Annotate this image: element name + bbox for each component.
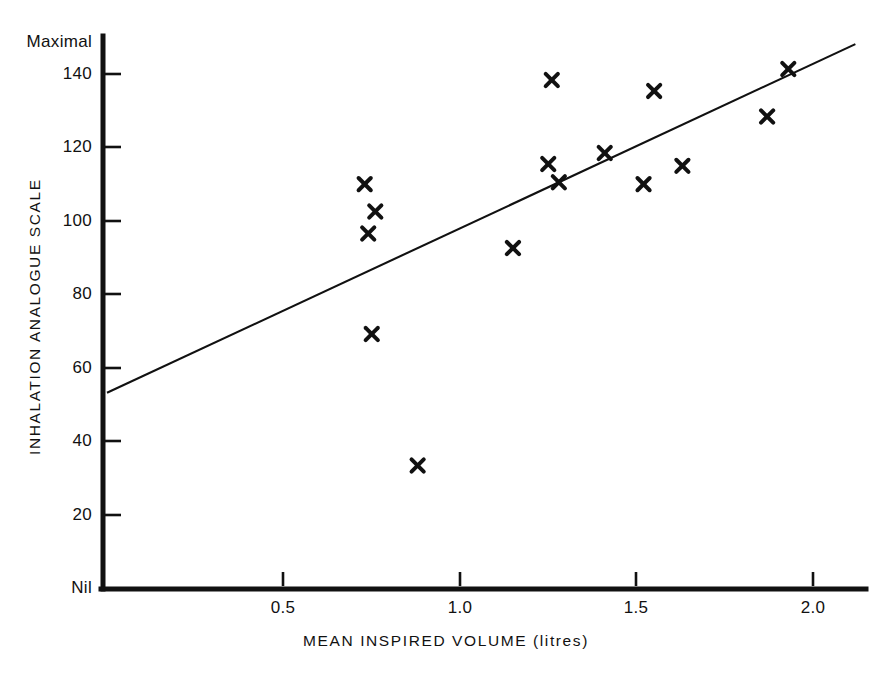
axes-group	[101, 36, 866, 589]
data-point	[507, 242, 519, 254]
data-point	[366, 328, 378, 340]
y-axis-ticks	[104, 74, 121, 515]
data-point	[637, 178, 649, 190]
x-tick-label-1.5: 1.5	[624, 598, 649, 618]
regression-line	[107, 44, 855, 393]
y-tick-label-120: 120	[22, 137, 92, 157]
data-point	[546, 74, 558, 86]
x-tick-label-1.0: 1.0	[448, 598, 473, 618]
data-point	[553, 176, 565, 188]
x-tick-label-2.0: 2.0	[801, 598, 826, 618]
scatter-plot-canvas	[0, 0, 894, 683]
y-axis-min-label: Nil	[12, 578, 92, 598]
data-point	[676, 160, 688, 172]
data-point	[412, 459, 424, 471]
data-point	[599, 147, 611, 159]
chart-figure: Maximal Nil 140 120 100 80 60 40 20 0.5 …	[0, 0, 894, 683]
x-axis-ticks	[283, 572, 813, 586]
y-tick-label-20: 20	[22, 505, 92, 525]
y-axis-title: INHALATION ANALOGUE SCALE	[26, 178, 44, 455]
data-point	[648, 85, 660, 97]
x-tick-label-0.5: 0.5	[271, 598, 296, 618]
x-axis-title: MEAN INSPIRED VOLUME (litres)	[303, 632, 589, 650]
data-point	[369, 205, 381, 217]
data-point	[782, 63, 794, 75]
y-tick-label-140: 140	[22, 64, 92, 84]
data-point	[761, 110, 773, 122]
data-point-group	[359, 63, 795, 472]
data-point	[542, 158, 554, 170]
y-axis-max-label: Maximal	[12, 32, 92, 52]
data-point	[359, 178, 371, 190]
data-point	[362, 227, 374, 239]
